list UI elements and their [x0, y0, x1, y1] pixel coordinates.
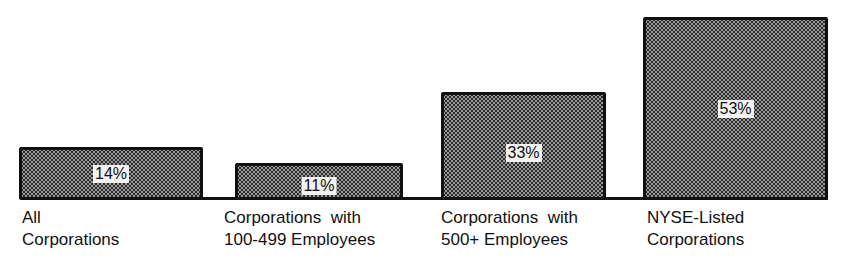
bar-corporations-100-499: 11% — [235, 163, 403, 200]
category-label-line: Corporations with — [441, 207, 578, 229]
category-label-line: Corporations — [22, 229, 119, 251]
bar-value-label: 11% — [302, 177, 337, 195]
category-label-500-plus: Corporations with 500+ Employees — [441, 207, 578, 251]
category-label-line: Corporations — [647, 229, 744, 251]
bar-chart: 14% 11% 33% 53% All Corporations Corpora… — [0, 0, 847, 272]
bar-nyse-listed: 53% — [643, 17, 828, 200]
category-label-line: NYSE-Listed — [647, 207, 744, 229]
bar-value-label: 14% — [93, 165, 129, 183]
category-label-line: Corporations with — [224, 207, 375, 229]
category-label-100-499: Corporations with 100-499 Employees — [224, 207, 375, 251]
category-label-nyse-listed: NYSE-Listed Corporations — [647, 207, 744, 251]
category-label-line: All — [22, 207, 119, 229]
category-label-line: 100-499 Employees — [224, 229, 375, 251]
category-label-line: 500+ Employees — [441, 229, 578, 251]
category-label-all-corporations: All Corporations — [22, 207, 119, 251]
bar-value-label: 53% — [717, 100, 753, 118]
bar-corporations-500-plus: 33% — [441, 92, 606, 200]
bar-value-label: 33% — [505, 144, 541, 162]
bar-all-corporations: 14% — [19, 147, 203, 200]
